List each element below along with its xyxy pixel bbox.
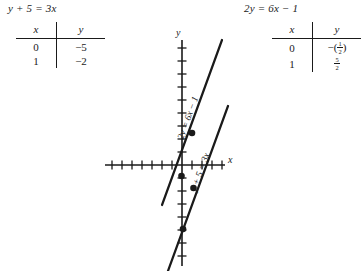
data-point	[180, 226, 187, 233]
cell-x: 1	[16, 54, 57, 68]
cell-y: −(12)	[313, 39, 361, 56]
cell-x: 0	[16, 39, 57, 55]
fraction: 52	[334, 56, 339, 71]
coordinate-graph: x y 2y = 6x − 1 y + 5 = 3x	[100, 20, 260, 271]
column-header-y: y	[313, 22, 361, 39]
value-table-left: x y 0 −5 1 −2	[16, 22, 105, 68]
data-point	[178, 173, 185, 180]
equation-heading-right: 2y = 6x − 1	[244, 2, 298, 14]
fraction-numerator: 5	[334, 56, 339, 64]
cell-y: −5	[57, 39, 106, 55]
table-row: 1 52	[272, 56, 361, 72]
equation-heading-left: y + 5 = 3x	[8, 2, 57, 14]
fraction: 12	[337, 40, 342, 55]
cell-x: 0	[272, 39, 313, 56]
fraction-denominator: 2	[334, 64, 339, 71]
table-header-row: x y	[272, 22, 361, 39]
fraction-prefix: −(	[328, 41, 338, 53]
fraction-numerator: 1	[337, 40, 342, 48]
x-axis-label: x	[227, 154, 233, 165]
cell-y: 52	[313, 56, 361, 72]
table-row: 0 −5	[16, 39, 105, 55]
value-table-right: x y 0 −(12) 1 52	[272, 22, 361, 72]
cell-x: 1	[272, 56, 313, 72]
table-header-row: x y	[16, 22, 105, 39]
column-header-x: x	[272, 22, 313, 39]
column-header-y: y	[57, 22, 106, 39]
table-row: 1 −2	[16, 54, 105, 68]
table-row: 0 −(12)	[272, 39, 361, 56]
fraction-suffix: )	[343, 41, 347, 53]
cell-y: −2	[57, 54, 106, 68]
fraction-denominator: 2	[337, 48, 342, 55]
line-label-lower: y + 5 = 3x	[188, 151, 212, 194]
data-point	[189, 130, 196, 137]
column-header-x: x	[16, 22, 57, 39]
y-axis-label: y	[175, 27, 181, 38]
